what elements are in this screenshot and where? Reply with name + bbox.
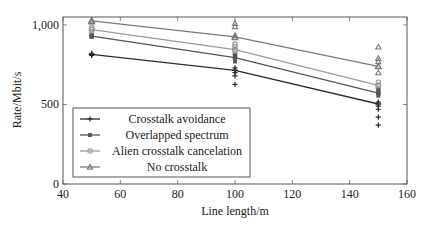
- x-tick-label: 160: [398, 187, 416, 201]
- x-tick-label: 60: [114, 187, 126, 201]
- y-axis-label: Rate/Mbit/s: [10, 71, 24, 128]
- y-tick-label: 1,000: [32, 18, 59, 32]
- plus-marker-icon: [376, 115, 381, 120]
- plus-marker-icon: [232, 82, 237, 87]
- x-axis-label: Line length/m: [201, 204, 269, 218]
- triangle-marker-icon: [376, 70, 381, 75]
- line-chart: 40608010012014016005001,000 Crosstalk av…: [0, 0, 430, 225]
- square-marker-icon: [89, 34, 94, 39]
- x-tick-label: 100: [226, 187, 244, 201]
- x-tick-label: 120: [283, 187, 301, 201]
- triangle-marker-icon: [376, 44, 381, 49]
- y-tick-label: 0: [53, 177, 59, 191]
- legend-label: Overlapped spectrum: [126, 128, 230, 142]
- plus-marker-icon: [376, 123, 381, 128]
- x-tick-label: 80: [172, 187, 184, 201]
- legend: Crosstalk avoidanceOverlapped spectrumAl…: [73, 108, 250, 177]
- legend-label: No crosstalk: [147, 160, 207, 174]
- y-tick-label: 500: [41, 97, 59, 111]
- square-marker-icon: [88, 133, 92, 137]
- square-marker-icon: [233, 55, 238, 60]
- legend-label: Alien crosstalk cancelation: [112, 144, 242, 158]
- plus-marker-icon: [89, 51, 95, 57]
- legend-label: Crosstalk avoidance: [129, 112, 226, 126]
- square-marker-icon: [233, 60, 237, 64]
- x-tick-label: 140: [341, 187, 359, 201]
- square-marker-icon: [376, 91, 381, 96]
